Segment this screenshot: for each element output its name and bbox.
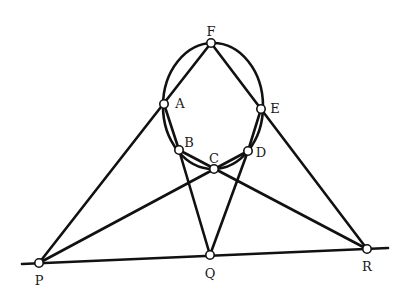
pascal-line-PQR	[22, 248, 388, 264]
line-R-B	[179, 150, 367, 249]
geometry-diagram: FAEBCDPQR	[0, 0, 412, 297]
point-E	[257, 105, 265, 113]
label-D: D	[256, 145, 266, 160]
construction-lines	[39, 43, 367, 263]
point-A	[160, 100, 168, 108]
label-A: A	[174, 96, 185, 111]
point-Q	[206, 251, 214, 259]
label-P: P	[35, 273, 44, 288]
point-P	[35, 259, 43, 267]
point-R	[363, 245, 371, 253]
point-F	[207, 39, 215, 47]
label-F: F	[206, 24, 215, 39]
line-R-F	[211, 43, 367, 249]
label-R: R	[362, 259, 373, 274]
point-C	[210, 165, 218, 173]
label-B: B	[184, 135, 194, 150]
point-B	[175, 146, 183, 154]
point-D	[244, 147, 252, 155]
label-C: C	[209, 151, 219, 166]
label-Q: Q	[205, 266, 216, 281]
label-E: E	[270, 101, 280, 116]
point-labels: FAEBCDPQR	[35, 24, 373, 288]
